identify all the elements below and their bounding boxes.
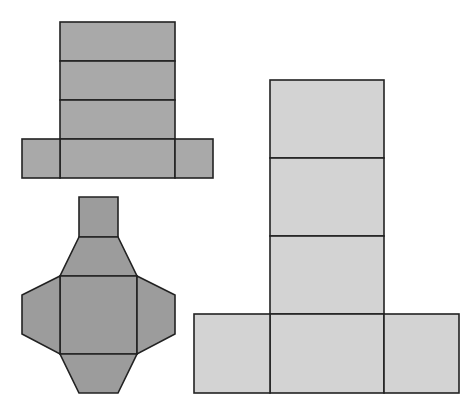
net-cuboid-large-face-1	[270, 158, 384, 236]
net-small-cuboid	[22, 22, 213, 178]
net-cuboid-large-face-3	[270, 314, 384, 393]
net-frustum-face-3	[22, 276, 60, 354]
net-frustum-face-4	[137, 276, 175, 354]
net-cuboid-large-face-0	[270, 80, 384, 158]
net-cuboid-small-face-4	[22, 139, 60, 178]
net-cuboid-small-face-3	[60, 139, 175, 178]
nets-diagram	[0, 0, 476, 410]
net-cuboid-small-face-1	[60, 61, 175, 100]
net-large-cuboid	[194, 80, 459, 393]
net-cuboid-small-face-0	[60, 22, 175, 61]
net-cuboid-large-face-5	[384, 314, 459, 393]
net-cuboid-small-face-2	[60, 100, 175, 139]
net-cuboid-large-face-4	[194, 314, 270, 393]
net-frustum-face-5	[60, 354, 137, 393]
net-frustum-face-2	[60, 276, 137, 354]
net-cuboid-large-face-2	[270, 236, 384, 314]
net-square-frustum	[22, 197, 175, 393]
net-frustum-face-0	[79, 197, 118, 237]
net-frustum-face-1	[60, 237, 137, 276]
net-cuboid-small-face-5	[175, 139, 213, 178]
